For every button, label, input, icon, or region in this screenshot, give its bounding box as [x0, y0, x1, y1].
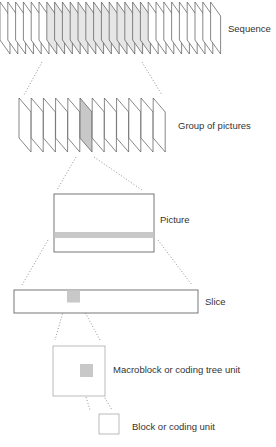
picture-slice-highlight	[55, 232, 154, 238]
slice	[14, 290, 198, 313]
hierarchy-diagram	[0, 0, 276, 447]
connector-sequence-right	[142, 62, 162, 95]
label-group-of-pictures: Group of pictures	[178, 120, 251, 131]
label-sequence: Sequence	[228, 23, 271, 34]
sequence-frames	[0, 2, 221, 54]
gop-frame	[19, 98, 31, 152]
slice-macroblock-highlight	[67, 291, 80, 303]
gop-frame	[104, 98, 116, 152]
gop-frame	[117, 98, 129, 152]
connector-picture-left	[22, 240, 48, 285]
gop-frame	[129, 98, 141, 152]
block	[99, 414, 119, 434]
macroblock	[53, 346, 105, 396]
gop-frame	[31, 98, 43, 152]
label-block: Block or coding unit	[132, 421, 215, 432]
connector-gop-left	[57, 157, 76, 190]
connector-picture-right	[158, 240, 192, 285]
connector-gop-right	[94, 157, 142, 190]
gop-frame	[153, 98, 165, 152]
picture-frame	[54, 194, 154, 252]
picture	[54, 194, 154, 252]
macroblock-frame	[53, 346, 105, 396]
gop-frame-highlighted	[80, 98, 92, 152]
connector-sequence-left	[24, 62, 42, 95]
gop-frames	[19, 98, 165, 152]
label-picture: Picture	[160, 214, 190, 225]
label-slice: Slice	[205, 296, 226, 307]
gop-frame	[68, 98, 80, 152]
gop-frame	[141, 98, 153, 152]
gop-frame	[92, 98, 104, 152]
label-macroblock: Macroblock or coding tree unit	[113, 364, 240, 375]
block-frame	[99, 414, 119, 434]
gop-frame	[56, 98, 68, 152]
gop-frame	[43, 98, 55, 152]
macroblock-block-highlight	[80, 364, 93, 377]
slice-frame	[14, 290, 198, 313]
